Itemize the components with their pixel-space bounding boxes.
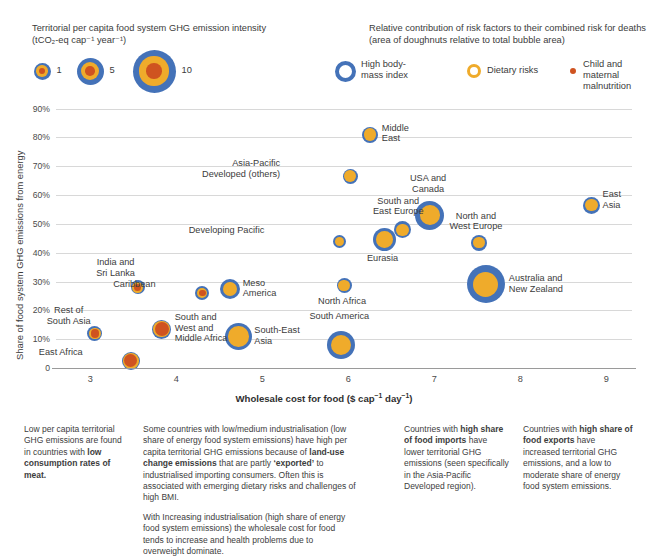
note-text: Countries with [404,424,460,434]
point-label-11: Middle East [382,123,409,144]
size-legend-title-line1: Territorial per capita food system GHG e… [32,22,332,34]
bubble-eurasia [373,228,396,251]
size-legend-title-line2: (tCO₂-eq cap⁻¹ year⁻¹) [32,34,332,46]
bubble-north-and-west-europe [471,235,487,251]
point-label-4: Caribbean [113,279,155,290]
dietary-ring [473,237,485,249]
gridline-y-40 [56,253,632,254]
risk-legend-label-1: Dietary risks [487,65,557,76]
size-legend-bubble-1 [34,63,51,80]
size-legend-label-10: 10 [182,65,192,75]
note-text: that are partly [217,458,274,468]
risk-legend-label-2: Child and maternal malnutrition [583,59,648,91]
x-tick-7: 7 [424,374,444,384]
note-low-emissions: Low per capita territorial GHG emissions… [24,424,128,489]
risk-legend-swatch-1 [467,64,481,78]
scatter-plot-area: Rest of South AsiaEast AfricaIndia and S… [56,100,632,368]
note-paragraph: Some countries with low/medium industria… [143,424,356,504]
bubble-south-and-west-and-middle-africa [152,320,171,339]
point-label-9: Developing Pacific [189,225,265,236]
note-paragraph: Countries with high share of food export… [523,424,633,492]
dietary-ring [331,335,351,355]
dietary-ring [223,282,237,296]
y-tick-50: 50% [16,219,50,229]
dietary-ring [396,224,408,236]
point-label-17: East Asia [603,189,621,210]
size-legend-bubble-5 [77,58,104,85]
y-tick-0: 0 [16,363,50,373]
note-paragraph: With Increasing industrialisation (high … [143,512,356,558]
point-label-7: South America [309,311,369,322]
y-tick-60: 60% [16,190,50,200]
point-label-1: East Africa [39,347,83,358]
dietary-ring [473,272,498,297]
y-tick-20: 20% [16,305,50,315]
malnutrition-core [155,322,169,336]
note-industrialisation: Some countries with low/medium industria… [143,424,356,560]
x-tick-6: 6 [338,374,358,384]
malnutrition-core [85,66,95,76]
note-food-exports: Countries with high share of food export… [523,424,633,500]
size-legend-title: Territorial per capita food system GHG e… [32,22,332,46]
risk-legend-title-line2: (area of doughnuts relative to total bub… [369,34,648,46]
point-label-5: Meso America [243,278,277,299]
point-label-8: North Africa [318,296,366,307]
y-tick-90: 90% [16,104,50,114]
bubble-south-america [327,331,355,359]
dietary-ring [376,231,393,248]
size-legend-bubble-10 [133,50,176,93]
bubble-north-africa [337,278,352,293]
y-tick-10: 10% [16,334,50,344]
x-tick-3: 3 [80,374,100,384]
bubble-meso-america [220,279,240,299]
x-axis-label: Wholesale cost for food ($ cap−1 day−1) [0,392,648,404]
bubble-asia-pacific-developed-others [343,169,358,184]
note-food-imports: Countries with high share of food import… [404,424,509,500]
risk-legend-title: Relative contribution of risk factors to… [369,22,648,46]
point-label-0: Rest of South Asia [47,305,91,326]
size-legend-label-1: 1 [57,65,62,75]
dietary-ring [335,237,344,246]
y-tick-40: 40% [16,248,50,258]
point-label-16: Australia and New Zealand [509,273,563,294]
bubble-middle-east [362,127,378,143]
gridline-y-50 [56,224,632,225]
note-text: With Increasing industrialisation (high … [143,512,345,556]
note-text: Countries with [523,424,579,434]
y-tick-80: 80% [16,132,50,142]
x-tick-9: 9 [596,374,616,384]
x-tick-4: 4 [166,374,186,384]
x-tick-8: 8 [510,374,530,384]
gridline-y-60 [56,195,632,196]
bubble-east-asia [583,197,600,214]
bubble-developing-pacific [333,235,346,248]
point-label-10: Asia-Pacific Developed (others) [202,158,280,179]
dietary-ring [364,128,376,140]
point-label-6: South-East Asia [254,325,299,346]
risk-legend-swatch-0 [335,61,356,82]
malnutrition-core [146,63,162,79]
point-label-12: Eurasia [367,253,398,264]
point-label-2: India and Sri Lanka [96,257,135,278]
point-label-14: USA and Canada [410,173,446,194]
y-tick-70: 70% [16,161,50,171]
malnutrition-core [199,290,206,297]
dietary-ring [228,326,249,347]
risk-legend-swatch-2 [570,68,576,74]
bubble-south-and-east-europe [394,221,411,238]
bubble-rest-of-south-asia [87,326,102,341]
y-tick-30: 30% [16,277,50,287]
point-label-15: North and West Europe [449,211,502,232]
gridline-y-80 [56,137,632,138]
dietary-ring [344,170,356,182]
note-paragraph: Countries with high share of food import… [404,424,509,492]
note-text: Low per capita territorial GHG emissions… [24,424,122,457]
size-legend-label-5: 5 [110,65,115,75]
point-label-13: South and East Europe [373,196,424,217]
point-label-3: South and West and Middle Africa [175,312,228,344]
risk-legend-label-0: High body-mass index [361,59,423,81]
bubble-south-east-asia [225,323,252,350]
note-emphasis: ‘exported’ [273,458,314,468]
dietary-ring [338,280,349,291]
gridline-y-90 [56,109,632,110]
